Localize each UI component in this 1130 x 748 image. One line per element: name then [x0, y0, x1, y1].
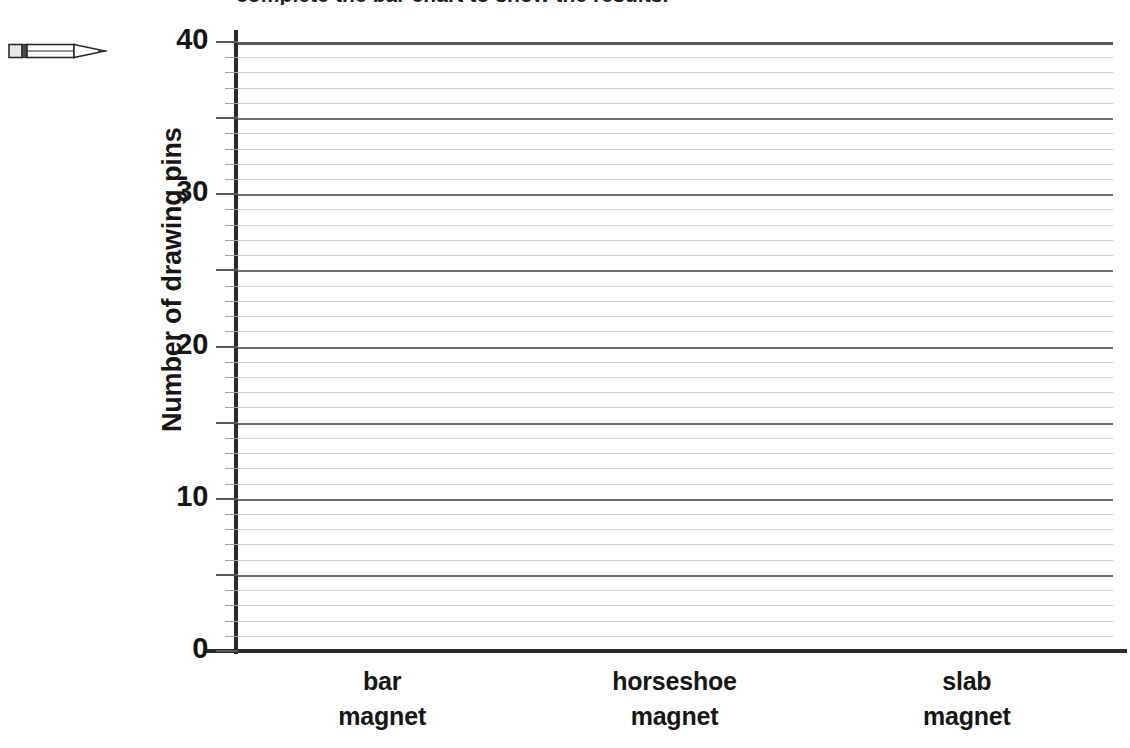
y-axis-tick: [225, 209, 238, 210]
x-axis-category-label-line: slab: [847, 664, 1087, 699]
gridline-minor: [236, 468, 1113, 469]
y-axis-tick: [225, 392, 238, 393]
gridline-minor: [236, 377, 1113, 378]
y-axis-tick: [225, 377, 238, 378]
gridline-minor: [236, 286, 1113, 287]
gridline-minor: [236, 544, 1113, 545]
gridline-major: [236, 118, 1113, 120]
gridline-minor: [236, 255, 1113, 256]
gridline-minor: [236, 240, 1113, 241]
x-axis-category-label: horseshoemagnet: [555, 664, 795, 734]
x-axis-category-label-line: bar: [262, 664, 502, 699]
x-axis-category-label-line: magnet: [847, 699, 1087, 734]
y-axis-tick: [225, 468, 238, 469]
y-axis-tick: [225, 286, 238, 287]
y-axis-tick: [216, 41, 238, 43]
y-axis-tick: [216, 422, 238, 424]
gridline-minor: [236, 438, 1113, 439]
gridline-minor: [236, 103, 1113, 104]
gridline-minor: [236, 453, 1113, 454]
gridline-minor: [236, 225, 1113, 226]
y-axis-tick: [216, 117, 238, 119]
y-axis-tick: [225, 301, 238, 302]
pencil-icon: [8, 40, 108, 62]
x-axis-category-label-line: horseshoe: [555, 664, 795, 699]
y-axis-tick: [225, 225, 238, 226]
gridline-minor: [236, 57, 1113, 58]
gridline-minor: [236, 529, 1113, 530]
y-axis-tick: [225, 621, 238, 622]
gridline-major: [236, 194, 1113, 196]
gridline-major: [236, 575, 1113, 577]
y-axis-tick: [216, 574, 238, 576]
y-axis-tick: [216, 650, 238, 652]
y-axis-tick: [225, 560, 238, 561]
y-axis-tick: [225, 72, 238, 73]
y-axis-tick: [225, 164, 238, 165]
x-axis-category-label-line: magnet: [555, 699, 795, 734]
gridline-major: [236, 423, 1113, 425]
gridline-minor: [236, 636, 1113, 637]
y-axis-tick: [216, 193, 238, 195]
gridline-minor: [236, 179, 1113, 180]
x-axis-category-label-line: magnet: [262, 699, 502, 734]
y-axis-tick: [225, 240, 238, 241]
y-axis-tick-label: 0: [148, 632, 208, 665]
y-axis-tick: [225, 514, 238, 515]
worksheet-page: complete the bar chart to show the resul…: [0, 0, 1130, 748]
gridline-minor: [236, 605, 1113, 606]
gridline-major: [236, 270, 1113, 272]
x-axis-category-label: slabmagnet: [847, 664, 1087, 734]
y-axis-tick: [225, 636, 238, 637]
gridline-minor: [236, 301, 1113, 302]
y-axis-tick: [225, 331, 238, 332]
x-axis-category-label: barmagnet: [262, 664, 502, 734]
gridline-minor: [236, 209, 1113, 210]
y-axis-tick: [216, 269, 238, 271]
y-axis-tick: [225, 544, 238, 545]
y-axis-tick: [225, 133, 238, 134]
gridline-minor: [236, 514, 1113, 515]
gridline-minor: [236, 362, 1113, 363]
y-axis-tick: [225, 149, 238, 150]
chart-plot-area: [236, 42, 1113, 651]
y-axis-tick: [225, 438, 238, 439]
y-axis-tick: [216, 346, 238, 348]
y-axis-tick: [225, 590, 238, 591]
y-axis-tick: [225, 529, 238, 530]
y-axis-tick: [225, 453, 238, 454]
gridline-minor: [236, 392, 1113, 393]
y-axis-title: Number of drawing pins: [155, 12, 189, 432]
gridline-minor: [236, 88, 1113, 89]
y-axis-tick: [225, 103, 238, 104]
y-axis-tick-label: 20: [148, 328, 208, 361]
gridline-minor: [236, 316, 1113, 317]
y-axis-tick: [225, 362, 238, 363]
y-axis-tick: [225, 57, 238, 58]
y-axis-tick: [225, 316, 238, 317]
y-axis-tick: [225, 605, 238, 606]
y-axis-tick: [225, 255, 238, 256]
gridline-major: [236, 42, 1113, 45]
y-axis-tick: [225, 407, 238, 408]
gridline-minor: [236, 72, 1113, 73]
gridline-major: [236, 499, 1113, 501]
y-axis-tick-label: 30: [148, 175, 208, 208]
x-axis-line: [206, 649, 1127, 653]
gridline-minor: [236, 407, 1113, 408]
gridline-minor: [236, 133, 1113, 134]
gridline-minor: [236, 331, 1113, 332]
y-axis-tick-label: 40: [148, 23, 208, 56]
gridline-minor: [236, 621, 1113, 622]
y-axis-tick: [225, 484, 238, 485]
gridline-minor: [236, 484, 1113, 485]
gridline-minor: [236, 164, 1113, 165]
y-axis-tick-label: 10: [148, 480, 208, 513]
y-axis-tick: [225, 179, 238, 180]
y-axis-tick: [225, 88, 238, 89]
gridline-major: [236, 347, 1113, 349]
gridline-minor: [236, 560, 1113, 561]
y-axis-tick: [216, 498, 238, 500]
clipped-instruction-text: complete the bar chart to show the resul…: [236, 0, 1116, 5]
gridline-minor: [236, 590, 1113, 591]
